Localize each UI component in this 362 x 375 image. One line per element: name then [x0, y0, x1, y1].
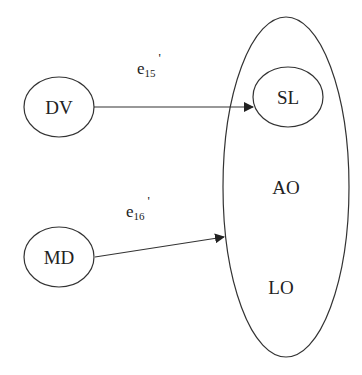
edge-label-e15-base: e [137, 59, 145, 78]
edge-label-e15-subscript: 15 [145, 67, 157, 79]
edge-md-group-arrow [95, 237, 224, 257]
node-md: MD [24, 227, 94, 287]
edge-label-e16: e16' [126, 193, 150, 222]
node-dv: DV [24, 77, 94, 137]
edge-label-e16-prime: ' [148, 193, 150, 208]
edge-label-e16-base: e [126, 202, 134, 221]
node-sl: SL [253, 67, 323, 127]
edge-label-e16-subscript: 16 [134, 210, 146, 222]
edge-label-e15-prime: ' [159, 50, 161, 65]
node-dv-label: DV [45, 97, 73, 118]
node-ao-label: AO [272, 177, 299, 198]
edge-label-e15: e15' [137, 50, 161, 79]
node-sl-label: SL [277, 87, 299, 108]
diagram-canvas: DV MD SL AO LO e15' e16' [0, 0, 362, 375]
node-md-label: MD [44, 247, 75, 268]
node-lo-label: LO [268, 277, 293, 298]
